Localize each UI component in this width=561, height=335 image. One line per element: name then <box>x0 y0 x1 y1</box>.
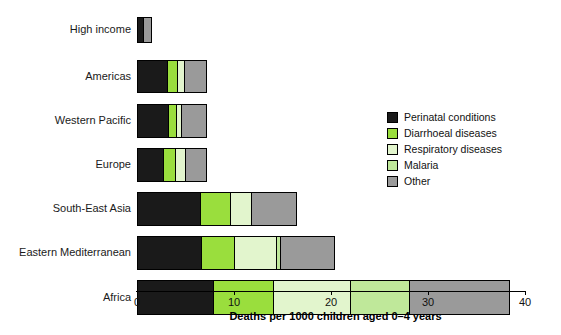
y-axis-category-labels: High incomeAmericasWestern PacificEurope… <box>0 14 131 290</box>
legend-label: Other <box>404 176 430 187</box>
y-label-high-income: High income <box>70 24 131 35</box>
x-tick-label-0: 0 <box>134 296 140 308</box>
x-tick-label-10: 10 <box>228 296 240 308</box>
legend-item-perinatal-conditions: Perinatal conditions <box>387 110 561 125</box>
legend-label: Diarrhoeal diseases <box>404 128 497 139</box>
legend-item-respiratory-diseases: Respiratory diseases <box>387 142 561 157</box>
bar-segment-diarrhoeal-diseases <box>163 148 175 182</box>
chart-legend: Perinatal conditionsDiarrhoeal diseasesR… <box>387 110 561 190</box>
legend-swatch-icon <box>387 160 398 171</box>
x-tick-label-40: 40 <box>519 296 531 308</box>
legend-label: Respiratory diseases <box>404 144 502 155</box>
bar-eastern-mediterranean <box>137 236 335 270</box>
legend-swatch-icon <box>387 144 398 155</box>
x-axis-title-text: Deaths per 1000 children aged 0–4 years <box>119 310 441 322</box>
bar-segment-respiratory-diseases <box>230 192 251 226</box>
bar-segment-other <box>143 17 152 43</box>
bar-segment-diarrhoeal-diseases <box>168 104 176 138</box>
legend-label: Malaria <box>404 160 438 171</box>
legend-swatch-icon <box>387 112 398 123</box>
x-tick-30 <box>428 291 429 295</box>
bar-segment-other <box>184 60 207 93</box>
legend-label: Perinatal conditions <box>404 112 496 123</box>
bar-segment-perinatal-conditions <box>137 60 167 93</box>
x-tick-40 <box>525 291 526 295</box>
y-label-americas: Americas <box>85 71 131 82</box>
bar-segment-perinatal-conditions <box>137 192 200 226</box>
bar-segment-diarrhoeal-diseases <box>200 192 230 226</box>
legend-swatch-icon <box>387 176 398 187</box>
legend-item-diarrhoeal-diseases: Diarrhoeal diseases <box>387 126 561 141</box>
bar-segment-respiratory-diseases <box>234 236 276 270</box>
bar-segment-perinatal-conditions <box>137 148 163 182</box>
bar-segment-other <box>185 148 207 182</box>
bar-segment-other <box>280 236 335 270</box>
legend-item-other: Other <box>387 174 561 189</box>
x-tick-label-20: 20 <box>325 296 337 308</box>
x-axis-title: Deaths per 1000 children aged 0–4 years <box>0 310 561 322</box>
x-tick-label-30: 30 <box>422 296 434 308</box>
legend-swatch-icon <box>387 128 398 139</box>
bar-segment-respiratory-diseases <box>175 148 185 182</box>
bar-segment-diarrhoeal-diseases <box>201 236 234 270</box>
bar-americas <box>137 60 207 93</box>
bar-segment-perinatal-conditions <box>137 236 201 270</box>
y-label-eastern-mediterranean: Eastern Mediterranean <box>19 247 131 258</box>
x-tick-0 <box>137 291 138 295</box>
bar-segment-diarrhoeal-diseases <box>167 60 177 93</box>
y-label-africa: Africa <box>103 292 131 303</box>
y-label-europe: Europe <box>96 159 131 170</box>
y-label-south-east-asia: South-East Asia <box>53 203 131 214</box>
x-tick-20 <box>331 291 332 295</box>
bar-high-income <box>137 17 152 43</box>
y-label-western-pacific: Western Pacific <box>55 115 131 126</box>
bar-segment-other <box>251 192 297 226</box>
chart-figure: High incomeAmericasWestern PacificEurope… <box>0 0 561 335</box>
bar-western-pacific <box>137 104 207 138</box>
bar-segment-respiratory-diseases <box>177 60 184 93</box>
legend-item-malaria: Malaria <box>387 158 561 173</box>
bar-europe <box>137 148 207 182</box>
bar-segment-other <box>181 104 207 138</box>
x-tick-10 <box>234 291 235 295</box>
bar-south-east-asia <box>137 192 297 226</box>
bar-segment-perinatal-conditions <box>137 104 168 138</box>
